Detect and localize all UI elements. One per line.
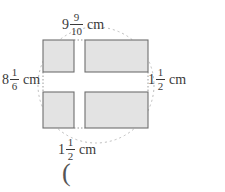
rect-top-right	[85, 40, 148, 72]
rect-bottom-left	[43, 92, 74, 128]
open-paren-annotation: (	[62, 160, 71, 186]
bottom-unit: cm	[79, 143, 96, 157]
left-unit: cm	[23, 73, 40, 87]
left-fraction: 1 6	[10, 67, 19, 92]
figure-drawing	[0, 0, 225, 192]
top-dimension-label: 9 9 10 cm	[62, 12, 104, 37]
top-denominator: 10	[70, 26, 83, 38]
top-fraction: 9 10	[70, 12, 83, 37]
top-mixed-number: 9 9 10 cm	[62, 12, 104, 37]
right-whole-part: 1	[148, 73, 155, 87]
bottom-whole-part: 1	[58, 143, 65, 157]
top-whole-part: 9	[62, 18, 69, 32]
left-mixed-number: 8 1 6 cm	[2, 67, 40, 92]
right-denominator: 2	[157, 81, 165, 93]
right-fraction: 1 2	[156, 67, 165, 92]
top-unit: cm	[87, 18, 104, 32]
top-numerator: 9	[73, 12, 81, 24]
bottom-numerator: 1	[67, 137, 75, 149]
left-numerator: 1	[11, 67, 19, 79]
rect-top-left	[43, 40, 74, 72]
rect-bottom-right	[85, 92, 148, 128]
left-whole-part: 8	[2, 73, 9, 87]
right-dimension-label: 1 1 2 cm	[148, 67, 186, 92]
right-numerator: 1	[157, 67, 165, 79]
right-mixed-number: 1 1 2 cm	[148, 67, 186, 92]
geometry-figure: 9 9 10 cm 8 1 6 cm 1 1 2	[0, 0, 225, 192]
left-dimension-label: 8 1 6 cm	[2, 67, 40, 92]
right-unit: cm	[169, 73, 186, 87]
left-denominator: 6	[11, 81, 19, 93]
